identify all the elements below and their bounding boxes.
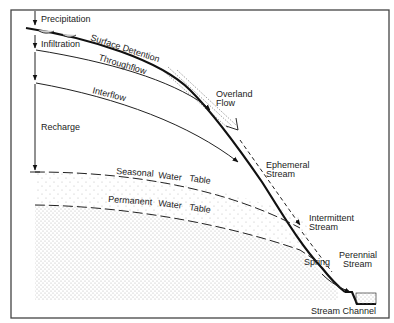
label-seasonal-2: Water: [158, 170, 183, 182]
hydrology-diagram: Precipitation Infiltration Surface Deten…: [0, 0, 394, 323]
label-infiltration: Infiltration: [41, 39, 80, 49]
label-intermittent-2: Stream: [309, 222, 338, 232]
label-seasonal-3: Table: [189, 173, 212, 186]
label-precipitation: Precipitation: [41, 14, 91, 24]
label-ephemeral-2: Stream: [266, 169, 295, 179]
stream-channel-water: [356, 293, 376, 304]
label-spring: Spring: [304, 257, 330, 267]
label-stream-channel: Stream Channel: [311, 306, 376, 316]
detention-pocket-2: [62, 34, 76, 37]
label-overland-2: Flow: [216, 98, 236, 108]
label-recharge: Recharge: [41, 122, 80, 132]
label-perennial-2: Stream: [343, 259, 372, 269]
